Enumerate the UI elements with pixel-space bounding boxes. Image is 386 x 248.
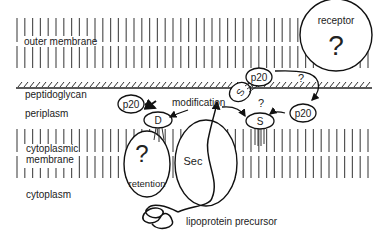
peptidoglycan-label: peptidoglycan xyxy=(25,89,87,100)
retention-node: ? retention xyxy=(124,131,170,197)
cytoplasmic-membrane-label-2: membrane xyxy=(26,154,74,165)
s-protein-inner-node: S xyxy=(246,113,274,146)
cytoplasmic-membrane-label-1: cytoplasmic xyxy=(26,143,78,154)
p20-right-label: p20 xyxy=(295,108,312,119)
lipoprotein-sorting-diagram: outer membrane peptidoglycan periplasm c… xyxy=(0,0,386,248)
retention-label: retention xyxy=(129,178,166,189)
periplasm-label: periplasm xyxy=(25,108,68,119)
retention-question-mark: ? xyxy=(135,140,148,167)
s-protein-inner-label: S xyxy=(257,116,264,127)
receptor-label: receptor xyxy=(318,15,355,26)
cytoplasm-label: cytoplasm xyxy=(26,189,71,200)
lipoprotein-precursor-label: lipoprotein precursor xyxy=(186,216,278,227)
p20-left-node: p20 xyxy=(118,95,144,113)
receptor-question-mark: ? xyxy=(328,30,344,61)
sec-translocon-node: Sec xyxy=(175,120,237,206)
arrow-from-right xyxy=(270,112,285,114)
question-upper: ? xyxy=(298,72,304,84)
outer-membrane-label: outer membrane xyxy=(24,36,98,47)
p20-top-node: p20 xyxy=(246,68,272,86)
modification-label: modification xyxy=(172,97,225,108)
release-arrow xyxy=(275,71,319,100)
p20-left-label: p20 xyxy=(123,99,140,110)
modification-arrow-to-d xyxy=(170,110,188,117)
receptor-node: receptor ? xyxy=(300,0,372,71)
d-protein-label: D xyxy=(154,115,161,126)
p20-top-label: p20 xyxy=(251,72,268,83)
blocked-arrow xyxy=(145,101,156,108)
question-middle: ? xyxy=(258,97,264,109)
modification-arrow-to-s xyxy=(222,107,245,116)
p20-right-node: p20 xyxy=(290,104,316,122)
sec-label: Sec xyxy=(184,155,203,167)
